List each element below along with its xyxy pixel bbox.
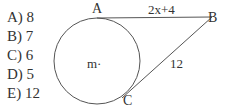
center-label: m· xyxy=(87,56,101,71)
point-a-label: A xyxy=(92,1,103,16)
geometry-diagram: A B C m· 2x+4 12 xyxy=(0,0,228,108)
point-b-label: B xyxy=(208,10,217,25)
point-c-label: C xyxy=(123,93,132,108)
tangent-segment-bc xyxy=(122,17,212,98)
segment-bc-length-label: 12 xyxy=(170,56,183,71)
tangent-segment-ab xyxy=(97,17,212,18)
segment-ab-length-label: 2x+4 xyxy=(148,2,175,17)
